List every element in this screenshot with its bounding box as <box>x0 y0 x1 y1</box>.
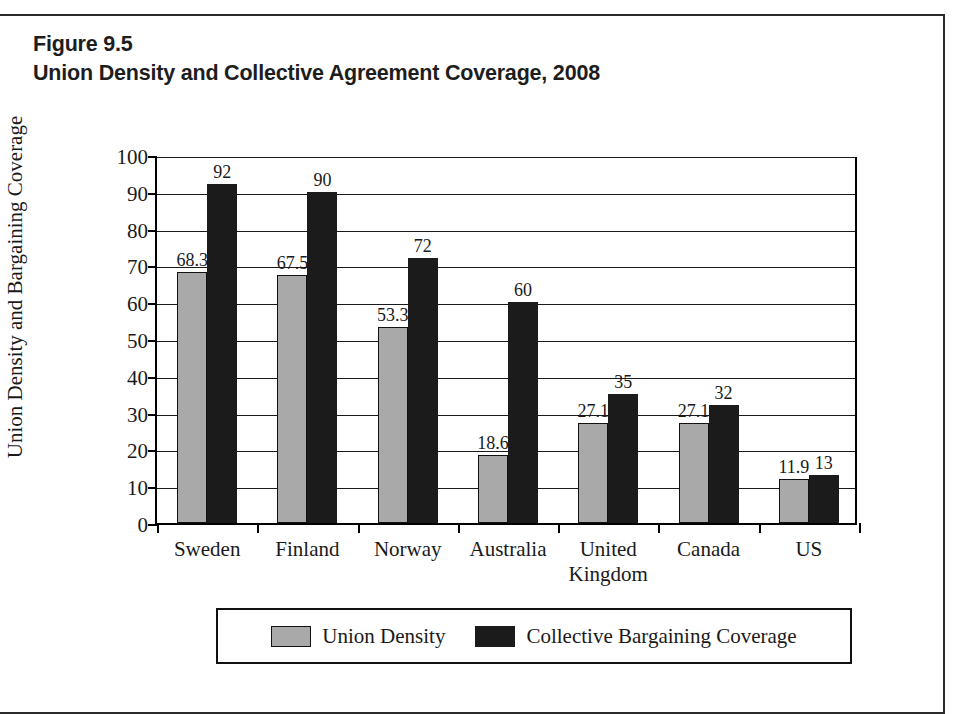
bar-coverage-canada: 32 <box>709 405 739 523</box>
legend-label: Union Density <box>322 624 445 649</box>
bar-group: 67.590 <box>277 157 337 523</box>
bar-value-label: 68.3 <box>176 250 208 271</box>
x-axis-category-label: US <box>795 537 822 562</box>
bar-value-label: 35 <box>614 372 632 393</box>
bar-union-norway: 53.3 <box>378 327 408 523</box>
x-axis-tick-mark <box>157 523 159 533</box>
y-axis-tick-label: 80 <box>127 218 148 243</box>
legend-swatch-coverage <box>475 626 515 647</box>
x-axis-category-label: United Kingdom <box>569 537 648 587</box>
y-axis-tick-label: 10 <box>127 476 148 501</box>
x-axis-tick-mark <box>558 523 560 533</box>
bar-value-label: 72 <box>414 236 432 257</box>
bar-group: 53.372 <box>378 157 438 523</box>
legend-swatch-union <box>271 626 311 647</box>
bar-union-sweden: 68.3 <box>177 272 207 523</box>
y-axis-tick-label: 0 <box>138 513 149 538</box>
x-axis-category-label: Norway <box>374 537 442 562</box>
bar-value-label: 32 <box>715 383 733 404</box>
bar-coverage-finland: 90 <box>307 192 337 523</box>
bar-union-us: 11.9 <box>779 479 809 523</box>
bar-union-united-kingdom: 27.1 <box>578 423 608 523</box>
x-axis-tick-mark <box>257 523 259 533</box>
y-axis-tick-label: 40 <box>127 365 148 390</box>
bar-group: 18.660 <box>478 157 538 523</box>
bar-value-label: 13 <box>815 453 833 474</box>
chart-area: Union Density and Bargaining Coverage 01… <box>0 0 945 700</box>
y-axis-tick-mark <box>148 303 157 305</box>
x-axis-tick-mark <box>859 523 861 533</box>
y-axis-tick-mark <box>148 487 157 489</box>
x-axis-tick-mark <box>759 523 761 533</box>
bar-coverage-us: 13 <box>809 475 839 523</box>
y-axis-tick-label: 20 <box>127 439 148 464</box>
y-axis-title: Union Density and Bargaining Coverage <box>0 103 30 471</box>
plot-area: 010203040506070809010068.392Sweden67.590… <box>155 157 857 525</box>
x-axis-category-label: Australia <box>470 537 547 562</box>
x-axis-category-label: Finland <box>275 537 339 562</box>
y-axis-tick-mark <box>148 524 157 526</box>
bar-group: 68.392 <box>177 157 237 523</box>
bar-union-canada: 27.1 <box>679 423 709 523</box>
x-axis-category-label: Sweden <box>174 537 241 562</box>
y-axis-tick-mark <box>148 266 157 268</box>
y-axis-tick-mark <box>148 340 157 342</box>
legend-label: Collective Bargaining Coverage <box>526 624 796 649</box>
y-axis-tick-mark <box>148 414 157 416</box>
bar-value-label: 27.1 <box>678 401 710 422</box>
y-axis-tick-mark <box>148 450 157 452</box>
bar-value-label: 27.1 <box>578 401 610 422</box>
y-axis-tick-label: 90 <box>127 181 148 206</box>
y-axis-tick-mark <box>148 156 157 158</box>
bar-group: 27.132 <box>679 157 739 523</box>
bar-value-label: 90 <box>313 170 331 191</box>
y-axis-tick-mark <box>148 377 157 379</box>
x-axis-tick-mark <box>458 523 460 533</box>
bar-value-label: 60 <box>514 280 532 301</box>
y-axis-tick-label: 70 <box>127 255 148 280</box>
bar-value-label: 11.9 <box>778 457 809 478</box>
bar-value-label: 18.6 <box>477 433 509 454</box>
x-axis-category-label: Canada <box>677 537 740 562</box>
y-axis-tick-label: 60 <box>127 292 148 317</box>
bar-union-finland: 67.5 <box>277 275 307 523</box>
legend-item: Collective Bargaining Coverage <box>475 624 796 649</box>
y-axis-tick-label: 50 <box>127 329 148 354</box>
y-axis-tick-label: 100 <box>117 145 149 170</box>
bar-coverage-sweden: 92 <box>207 184 237 523</box>
bar-group: 27.135 <box>578 157 638 523</box>
bar-group: 11.913 <box>779 157 839 523</box>
chart-legend: Union DensityCollective Bargaining Cover… <box>216 608 852 664</box>
y-axis-tick-mark <box>148 230 157 232</box>
bar-value-label: 92 <box>213 162 231 183</box>
y-axis-tick-mark <box>148 193 157 195</box>
bar-coverage-norway: 72 <box>408 258 438 523</box>
bar-coverage-australia: 60 <box>508 302 538 523</box>
bar-union-australia: 18.6 <box>478 455 508 523</box>
x-axis-tick-mark <box>658 523 660 533</box>
bar-value-label: 53.3 <box>377 305 409 326</box>
legend-item: Union Density <box>271 624 445 649</box>
x-axis-tick-mark <box>358 523 360 533</box>
y-axis-tick-label: 30 <box>127 402 148 427</box>
bar-value-label: 67.5 <box>277 253 309 274</box>
bar-coverage-united-kingdom: 35 <box>608 394 638 523</box>
